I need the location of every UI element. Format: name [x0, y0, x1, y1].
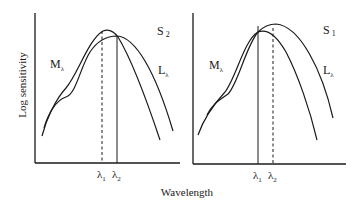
x-axis-label: Wavelength	[161, 186, 214, 198]
right-lambda1-label: λ1	[253, 169, 262, 184]
right-l-label: Lλ	[323, 63, 334, 79]
right-l-curve	[207, 24, 333, 118]
left-panel-label: S2	[157, 24, 170, 39]
left-lambda1-label: λ1	[97, 168, 106, 183]
right-panel-label: S1	[323, 23, 336, 38]
left-l-label: Lλ	[158, 63, 169, 79]
left-l-curve	[44, 36, 173, 131]
panel-left: S2 Mλ Lλ λ1 λ2	[35, 13, 180, 183]
sensitivity-diagram: Log sensitivity S2 Mλ Lλ λ1 λ2	[0, 0, 361, 209]
y-axis-label: Log sensitivity	[16, 52, 28, 118]
right-lambda2-label: λ2	[268, 169, 277, 184]
left-m-curve	[42, 30, 160, 140]
left-lambda2-label: λ2	[112, 168, 121, 183]
panel-right: S1 Mλ Lλ λ1 λ2	[193, 13, 346, 184]
left-m-label: Mλ	[50, 57, 65, 73]
right-m-label: Mλ	[209, 58, 224, 74]
